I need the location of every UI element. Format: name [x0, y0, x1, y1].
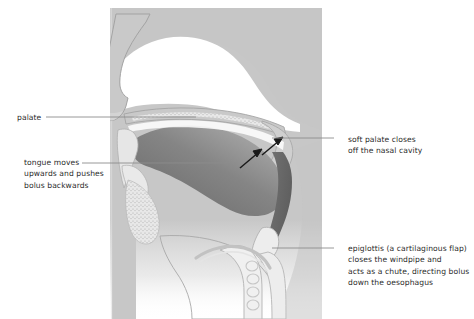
- label-tongue-movement: tongue moves upwards and pushes bolus ba…: [24, 157, 104, 191]
- label-tongue-line-2: upwards and pushes: [24, 168, 104, 179]
- label-soft-palate: soft palate closes off the nasal cavity: [348, 134, 422, 157]
- label-epiglottis-line-2: closes the windpipe and: [348, 254, 469, 265]
- diagram-canvas: palate tongue moves upwards and pushes b…: [0, 0, 474, 319]
- label-tongue-line-1: tongue moves: [24, 157, 104, 168]
- label-soft-palate-line-1: soft palate closes: [348, 134, 422, 145]
- label-soft-palate-line-2: off the nasal cavity: [348, 145, 422, 156]
- label-epiglottis-line-4: down the oesophagus: [348, 277, 469, 288]
- label-epiglottis: epiglottis (a cartilaginous flap) closes…: [348, 243, 469, 289]
- label-tongue-line-3: bolus backwards: [24, 180, 104, 191]
- label-palate: palate: [17, 112, 41, 123]
- label-epiglottis-line-3: acts as a chute, directing bolus: [348, 266, 469, 277]
- label-palate-line-1: palate: [17, 112, 41, 123]
- label-epiglottis-line-1: epiglottis (a cartilaginous flap): [348, 243, 469, 254]
